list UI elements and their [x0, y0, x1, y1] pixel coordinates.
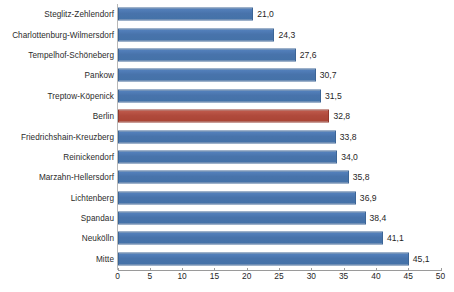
- bar-value-label: 24,3: [278, 30, 295, 40]
- category-label: Neukölln: [82, 234, 114, 243]
- bar: [118, 252, 409, 265]
- category-label: Reinickendorf: [63, 152, 114, 161]
- bar: [118, 69, 316, 82]
- bar: [118, 130, 336, 143]
- bar-value-label: 36,9: [360, 193, 377, 203]
- bar-highlighted: [118, 110, 330, 123]
- x-tick-mark: [311, 268, 312, 271]
- bar-row: Charlottenburg-Wilmersdorf24,3: [0, 24, 454, 44]
- bar: [118, 8, 254, 21]
- x-tick-label: 40: [371, 271, 380, 281]
- bar-value-label: 35,8: [353, 172, 370, 182]
- x-tick-mark: [376, 268, 377, 271]
- bar-value-label: 38,4: [370, 213, 387, 223]
- bar-track: 27,6: [118, 45, 454, 65]
- bar-row: Steglitz-Zehlendorf21,0: [0, 4, 454, 24]
- bar-track: 24,3: [118, 24, 454, 44]
- bar: [118, 191, 356, 204]
- bar-track: 32,8: [118, 106, 454, 126]
- x-tick-label: 10: [177, 271, 186, 281]
- x-tick-label: 30: [307, 271, 316, 281]
- x-tick-mark: [279, 268, 280, 271]
- bar-track: 38,4: [118, 208, 454, 228]
- category-label: Treptow-Köpenick: [48, 91, 114, 100]
- bar-value-label: 32,8: [333, 111, 350, 121]
- bar-row: Neukölln41,1: [0, 228, 454, 248]
- bar-row: Spandau38,4: [0, 208, 454, 228]
- bar-row: Berlin32,8: [0, 106, 454, 126]
- x-tick-mark: [150, 268, 151, 271]
- category-label: Spandau: [81, 214, 114, 223]
- bar-value-label: 31,5: [325, 91, 342, 101]
- bar-track: 31,5: [118, 86, 454, 106]
- bar-row: Marzahn-Hellersdorf35,8: [0, 167, 454, 187]
- bar-value-label: 21,0: [257, 9, 274, 19]
- bar: [118, 150, 338, 163]
- x-tick-mark: [214, 268, 215, 271]
- bar-row: Reinickendorf34,0: [0, 147, 454, 167]
- bar-track: 34,0: [118, 147, 454, 167]
- x-tick-label: 50: [436, 271, 445, 281]
- x-tick-mark: [408, 268, 409, 271]
- bar: [118, 212, 366, 225]
- bar-chart: Steglitz-Zehlendorf21,0Charlottenburg-Wi…: [0, 0, 454, 292]
- x-tick-label: 15: [210, 271, 219, 281]
- x-tick-label: 35: [339, 271, 348, 281]
- bar-track: 45,1: [118, 249, 454, 269]
- bar: [118, 171, 349, 184]
- x-tick-mark: [441, 268, 442, 271]
- bar-row: Treptow-Köpenick31,5: [0, 86, 454, 106]
- category-label: Charlottenburg-Wilmersdorf: [12, 30, 114, 39]
- x-tick-label: 5: [147, 271, 152, 281]
- bar-value-label: 27,6: [300, 50, 317, 60]
- bar-value-label: 41,1: [387, 233, 404, 243]
- category-label: Lichtenberg: [71, 193, 114, 202]
- category-label: Berlin: [93, 112, 114, 121]
- category-label: Mitte: [96, 254, 114, 263]
- x-tick-label: 45: [404, 271, 413, 281]
- x-tick-label: 25: [274, 271, 283, 281]
- bar-track: 21,0: [118, 4, 454, 24]
- bar: [118, 48, 296, 61]
- x-tick-mark: [344, 268, 345, 271]
- bar-value-label: 33,8: [340, 132, 357, 142]
- bar: [118, 28, 275, 41]
- bar-track: 36,9: [118, 188, 454, 208]
- bar: [118, 232, 384, 245]
- category-label: Pankow: [85, 71, 114, 80]
- bar: [118, 89, 321, 102]
- bar-track: 33,8: [118, 126, 454, 146]
- x-tick-label: 20: [242, 271, 251, 281]
- bar-row: Tempelhof-Schöneberg27,6: [0, 45, 454, 65]
- bar-row: Lichtenberg36,9: [0, 188, 454, 208]
- x-tick-mark: [247, 268, 248, 271]
- category-label: Tempelhof-Schöneberg: [28, 50, 114, 59]
- category-label: Marzahn-Hellersdorf: [39, 173, 114, 182]
- bar-value-label: 30,7: [320, 70, 337, 80]
- bar-rows-area: Steglitz-Zehlendorf21,0Charlottenburg-Wi…: [0, 4, 454, 270]
- x-tick-mark: [118, 268, 119, 271]
- category-label: Friedrichshain-Kreuzberg: [21, 132, 114, 141]
- x-axis-ticks: 05101520253035404550: [0, 271, 454, 291]
- x-tick-label: 0: [115, 271, 120, 281]
- bar-value-label: 34,0: [341, 152, 358, 162]
- bar-track: 30,7: [118, 65, 454, 85]
- bar-row: Mitte45,1: [0, 249, 454, 269]
- bar-row: Friedrichshain-Kreuzberg33,8: [0, 126, 454, 146]
- bar-value-label: 45,1: [413, 254, 430, 264]
- bar-row: Pankow30,7: [0, 65, 454, 85]
- category-label: Steglitz-Zehlendorf: [44, 10, 114, 19]
- bar-track: 41,1: [118, 228, 454, 248]
- bar-track: 35,8: [118, 167, 454, 187]
- x-tick-mark: [182, 268, 183, 271]
